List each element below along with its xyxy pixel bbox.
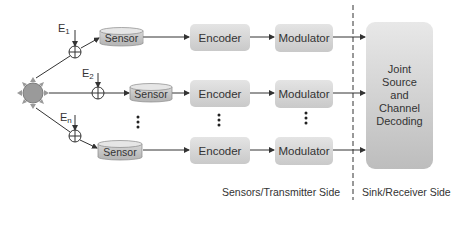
ellipsis-dots: [137, 112, 308, 129]
encoder-label: Encoder: [199, 88, 242, 100]
decoder-line: Joint: [376, 63, 422, 76]
encoder-box-1: Encoder: [190, 24, 250, 51]
adder-n-icon: [69, 130, 81, 142]
joint-decoder-box: Joint Source and Channel Decoding: [366, 22, 433, 169]
decoder-line: Decoding: [376, 115, 422, 128]
error-label-n: En: [60, 111, 72, 125]
modulator-label: Modulator: [278, 145, 329, 157]
decoder-line: Channel: [376, 102, 422, 115]
modulator-box-n: Modulator: [275, 137, 333, 165]
adder-2-icon: [92, 87, 104, 99]
encoder-box-n: Encoder: [190, 137, 250, 164]
decoder-line: and: [376, 89, 422, 102]
modulator-label: Modulator: [278, 88, 329, 100]
encoder-label: Encoder: [199, 145, 242, 157]
adder-1-icon: [69, 46, 81, 58]
receiver-side-label: Sink/Receiver Side: [362, 186, 451, 198]
sensor-label-n: Sensor: [103, 146, 137, 158]
transmitter-side-label: Sensors/Transmitter Side: [222, 186, 340, 198]
encoder-label: Encoder: [199, 32, 242, 44]
sensor-label-2: Sensor: [134, 88, 168, 100]
encoder-box-2: Encoder: [190, 80, 250, 107]
error-label-2: E2: [82, 67, 94, 81]
modulator-box-1: Modulator: [275, 24, 333, 52]
error-label-1: E1: [58, 22, 70, 36]
decoder-line: Source: [376, 76, 422, 89]
sun-source-icon: [17, 77, 49, 109]
modulator-label: Modulator: [278, 32, 329, 44]
sensor-label-1: Sensor: [105, 32, 139, 44]
modulator-box-2: Modulator: [275, 80, 333, 108]
